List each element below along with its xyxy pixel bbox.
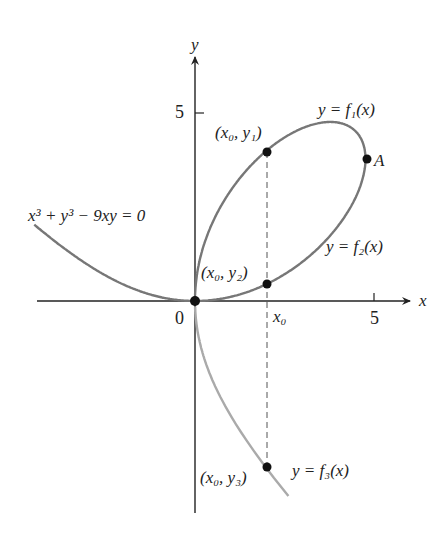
equation-label: x³ + y³ − 9xy = 0 xyxy=(28,207,145,224)
point-x0-y1-label: (x₀, y₁) xyxy=(215,124,262,141)
y-tick-label: 5 xyxy=(175,103,184,121)
point-x0-y2 xyxy=(263,280,272,289)
f1-label: y = f₁(x) xyxy=(318,101,375,118)
folium-left-branch xyxy=(34,225,195,301)
point-x0-y2-label: (x₀, y₂) xyxy=(201,264,248,281)
point-A-label: A xyxy=(374,152,384,169)
point-x0-y3-label: (x₀, y₃) xyxy=(200,469,247,486)
y-axis-label: y xyxy=(191,36,199,53)
origin-label: 0 xyxy=(175,309,184,327)
f2-label: y = f₂(x) xyxy=(326,238,383,255)
x0-label: x₀ xyxy=(273,308,286,325)
point-x0-y3 xyxy=(263,463,272,472)
point-A xyxy=(363,155,372,164)
x-tick-label: 5 xyxy=(370,309,379,327)
f3-label: y = f₃(x) xyxy=(292,462,349,479)
x-axis-label: x xyxy=(419,292,427,309)
point-x0-y1 xyxy=(263,148,272,157)
origin-point xyxy=(190,296,200,306)
